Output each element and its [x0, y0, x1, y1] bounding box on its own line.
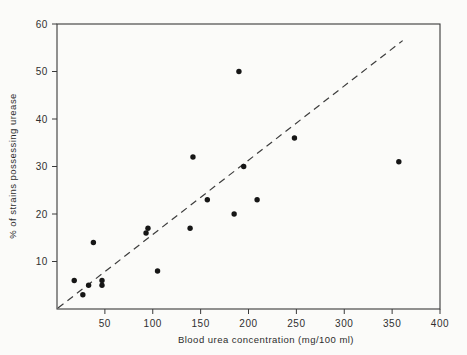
data-point [143, 230, 148, 235]
scatter-figure: 50100150200250300350400102030405060 Bloo… [0, 0, 467, 355]
data-point [72, 278, 77, 283]
y-tick-label: 50 [36, 66, 48, 77]
x-tick-label: 350 [383, 318, 402, 329]
data-point [155, 268, 160, 273]
data-point [396, 159, 401, 164]
y-tick-label: 60 [36, 19, 48, 30]
x-tick-label: 100 [144, 318, 163, 329]
data-point [254, 197, 259, 202]
data-point [145, 226, 150, 231]
plot-svg: 50100150200250300350400102030405060 [0, 0, 467, 355]
data-point [231, 211, 236, 216]
data-point [99, 278, 104, 283]
x-tick-label: 400 [431, 318, 450, 329]
data-point [241, 164, 246, 169]
y-tick-label: 30 [36, 161, 48, 172]
data-point [86, 283, 91, 288]
x-tick-label: 150 [191, 318, 210, 329]
trend-line [58, 41, 403, 308]
x-tick-label: 50 [99, 318, 111, 329]
y-axis-title-text: % of strains possessing urease [7, 93, 18, 239]
data-point [80, 292, 85, 297]
data-point [91, 240, 96, 245]
data-point [99, 283, 104, 288]
x-axis-title: Blood urea concentration (mg/100 ml) [16, 334, 467, 345]
y-tick-label: 20 [36, 209, 48, 220]
data-point [187, 226, 192, 231]
data-point [236, 69, 241, 74]
y-tick-label: 40 [36, 114, 48, 125]
x-tick-label: 200 [239, 318, 258, 329]
y-axis-title: % of strains possessing urease [7, 20, 18, 166]
data-point [190, 154, 195, 159]
plot-area-border [57, 24, 440, 309]
data-point [205, 197, 210, 202]
y-tick-label: 10 [36, 256, 48, 267]
x-tick-label: 250 [287, 318, 306, 329]
x-tick-label: 300 [335, 318, 354, 329]
data-point [292, 135, 297, 140]
